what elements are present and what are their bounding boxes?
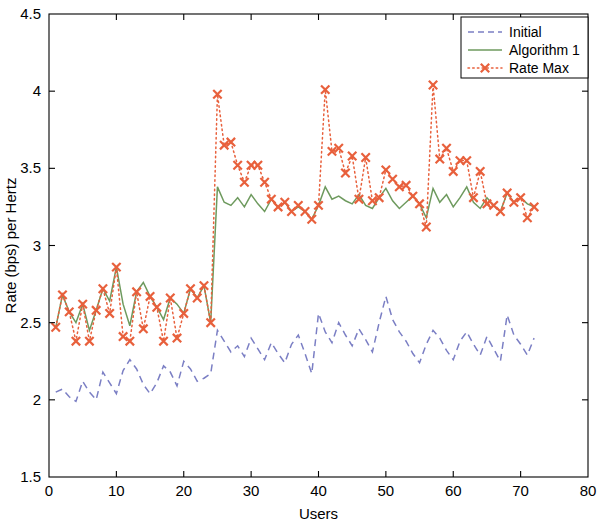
x-tick-label: 30	[243, 482, 260, 499]
x-tick-label: 70	[512, 482, 529, 499]
x-tick-label: 80	[580, 482, 597, 499]
legend-label: Algorithm 1	[509, 42, 580, 58]
series-markers-rate-max	[52, 81, 539, 346]
y-tick-label: 2.5	[20, 314, 41, 331]
x-tick-label: 60	[445, 482, 462, 499]
chart-legend: InitialAlgorithm 1Rate Max	[461, 17, 588, 78]
y-tick-label: 2	[33, 391, 41, 408]
legend-label: Rate Max	[509, 60, 569, 76]
y-tick-label: 4.5	[20, 5, 41, 22]
plot-border	[49, 14, 588, 477]
y-tick-label: 4	[33, 82, 41, 99]
legend-label: Initial	[509, 24, 542, 40]
x-tick-label: 10	[108, 482, 125, 499]
axis-layer	[49, 14, 588, 477]
series-line-rate-max	[56, 85, 534, 341]
x-axis-title: Users	[299, 505, 338, 522]
x-tick-label: 50	[378, 482, 395, 499]
x-tick-label: 0	[45, 482, 53, 499]
chart-figure: 010203040506070801.522.533.544.5 Initial…	[0, 0, 606, 523]
y-axis-title: Rate (bps) per Hertz	[2, 178, 19, 314]
y-tick-label: 3.5	[20, 159, 41, 176]
series-layer	[52, 81, 539, 402]
y-tick-label: 1.5	[20, 468, 41, 485]
y-tick-label: 3	[33, 237, 41, 254]
series-line-initial	[56, 296, 534, 401]
x-tick-label: 40	[310, 482, 327, 499]
chart-canvas: 010203040506070801.522.533.544.5 Initial…	[0, 0, 606, 523]
tick-label-layer: 010203040506070801.522.533.544.5	[20, 5, 596, 499]
x-tick-label: 20	[175, 482, 192, 499]
